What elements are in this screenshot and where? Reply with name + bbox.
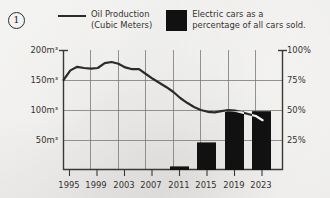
horizontal-gridlines	[63, 81, 283, 141]
bar-2011	[170, 166, 189, 170]
plot-svg	[0, 0, 330, 198]
line-series-oil-production-over-bars	[64, 62, 263, 120]
bar-2015	[197, 142, 216, 170]
bar-2019	[225, 111, 244, 170]
x-axis-ticks	[70, 170, 263, 176]
chart-plot: 200m³ 150m³ 100m³ 50m³ 100% 75% 50% 25% …	[0, 0, 330, 198]
